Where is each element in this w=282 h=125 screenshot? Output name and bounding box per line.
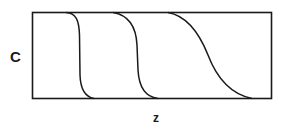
concentration-profile-diagram bbox=[0, 0, 282, 125]
curve-front-3 bbox=[168, 13, 252, 99]
x-axis-label: z bbox=[153, 111, 159, 125]
curve-front-1 bbox=[66, 13, 94, 99]
plot-frame bbox=[33, 13, 272, 99]
y-axis-label: C bbox=[10, 48, 21, 65]
curve-front-2 bbox=[113, 13, 158, 99]
